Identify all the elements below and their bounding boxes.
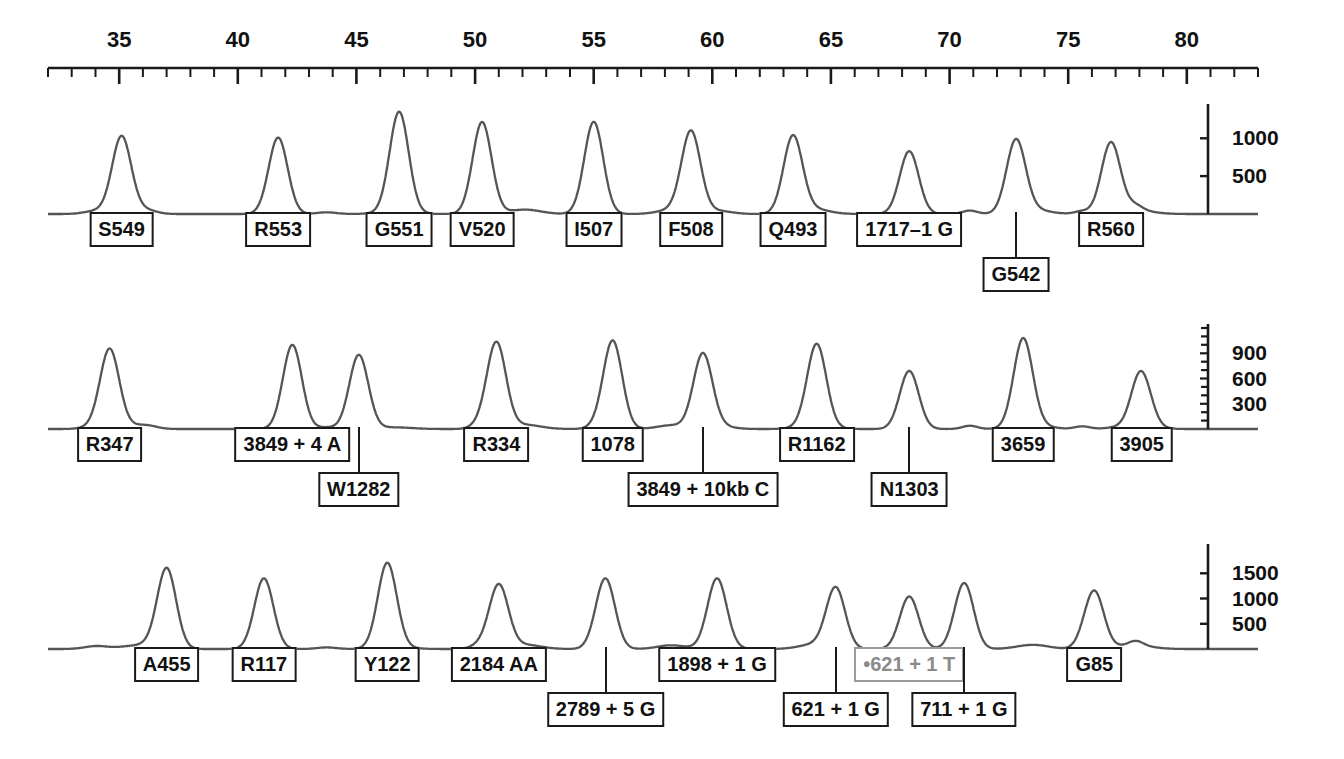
peak-label-r117[interactable]: R117 [232,647,297,682]
panel-1-trace [0,100,1344,220]
panel-1-ytick-1000: 1000 [1232,126,1279,150]
peak-label-g551[interactable]: G551 [366,212,433,247]
peak-label-s549[interactable]: S549 [89,212,154,247]
peak-leader-line [835,647,837,692]
peak-label-2184-aa[interactable]: 2184 AA [451,647,547,682]
panel-3-trace [0,540,1344,655]
peak-label-r560[interactable]: R560 [1078,212,1144,247]
peak-label-1898-1-g[interactable]: 1898 + 1 G [658,647,776,682]
panel-2-ytick-300: 300 [1232,392,1267,416]
ruler-tick-40: 40 [226,27,250,53]
ruler-tick-35: 35 [107,27,131,53]
electropherogram-figure: 35404550556065707580 5001000 S549R553G55… [0,0,1344,759]
peak-label-y122[interactable]: Y122 [355,647,420,682]
ruler-tick-45: 45 [344,27,368,53]
ruler-tick-55: 55 [581,27,605,53]
peak-label-3849-4-a[interactable]: 3849 + 4 A [235,427,351,462]
peak-label-2789-5-g[interactable]: 2789 + 5 G [547,692,665,727]
panel-2-ytick-900: 900 [1232,341,1267,365]
ruler-tick-75: 75 [1056,27,1080,53]
peak-label-1078[interactable]: 1078 [581,427,644,462]
peak-label-r553[interactable]: R553 [245,212,311,247]
panel-2: 300600900 R3473849 + 4 AW1282R3341078384… [0,320,1344,510]
panel-3-ytick-500: 500 [1232,612,1267,636]
ruler-tick-80: 80 [1175,27,1199,53]
peak-label-711-1-g[interactable]: 711 + 1 G [911,692,1016,727]
peak-label-n1303[interactable]: N1303 [871,472,948,507]
ruler-svg [0,0,1344,92]
ruler-tick-70: 70 [937,27,961,53]
panel-3-ytick-1000: 1000 [1232,587,1279,611]
peak-label-1717-1-g[interactable]: 1717–1 G [856,212,962,247]
peak-label-g542[interactable]: G542 [983,257,1050,292]
peak-label-r1162[interactable]: R1162 [779,427,855,462]
peak-leader-line [1015,212,1017,257]
peak-label-3905[interactable]: 3905 [1110,427,1173,462]
peak-label-r347[interactable]: R347 [77,427,143,462]
peak-leader-line [963,647,965,692]
peak-leader-line [358,427,360,472]
panel-1-yaxis [1200,100,1320,220]
peak-leader-line [702,427,704,472]
peak-label-621-1-g[interactable]: 621 + 1 G [782,692,888,727]
peak-leader-line [605,647,607,692]
panel-1: 5001000 S549R553G551V520I507F508Q4931717… [0,100,1344,290]
peak-label-621-1-t[interactable]: •621 + 1 T [854,647,964,682]
peak-label-f508[interactable]: F508 [659,212,723,247]
peak-label-w1282[interactable]: W1282 [318,472,399,507]
peak-label-r334[interactable]: R334 [464,427,530,462]
peak-leader-line [908,427,910,472]
panel-1-ytick-500: 500 [1232,164,1267,188]
peak-label-3849-10kb-c[interactable]: 3849 + 10kb C [627,472,778,507]
peak-label-q493[interactable]: Q493 [760,212,827,247]
peak-label-g85[interactable]: G85 [1066,647,1122,682]
ruler-tick-50: 50 [463,27,487,53]
top-size-ruler: 35404550556065707580 [0,0,1344,92]
peak-label-i507[interactable]: I507 [565,212,622,247]
peak-label-3659[interactable]: 3659 [992,427,1055,462]
peak-label-v520[interactable]: V520 [450,212,515,247]
ruler-tick-65: 65 [819,27,843,53]
panel-2-trace [0,320,1344,435]
ruler-tick-60: 60 [700,27,724,53]
panel-3: 50010001500 A455R117Y1222184 AA2789 + 5 … [0,540,1344,740]
panel-3-ytick-1500: 1500 [1232,561,1279,585]
peak-label-a455[interactable]: A455 [134,647,200,682]
panel-2-ytick-600: 600 [1232,367,1267,391]
